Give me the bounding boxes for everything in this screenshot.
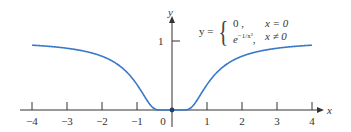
x-tick-label: 3 [274, 115, 280, 127]
case1-expr: 0 , [233, 17, 265, 30]
formula-annotation: y = { 0 , x = 0 e−1/x², x ≠ 0 [199, 17, 288, 46]
x-tick-label: 0 [160, 115, 166, 127]
chart-canvas: −4−3−2−101234 1 y x [0, 0, 351, 132]
x-tick-label: 1 [204, 115, 210, 127]
case1-cond: x = 0 [265, 17, 288, 30]
x-tick-label: −2 [96, 115, 108, 127]
x-axis-arrow-icon [317, 107, 324, 113]
x-tick-label: 4 [309, 115, 315, 127]
formula-cases: 0 , x = 0 e−1/x², x ≠ 0 [233, 17, 288, 46]
x-tick-labels: −4−3−2−101234 [26, 115, 315, 127]
case-row-2: e−1/x², x ≠ 0 [233, 30, 288, 46]
origin-point-marker [170, 108, 175, 113]
x-tick-label: −4 [26, 115, 38, 127]
y-tick-label-1: 1 [158, 35, 164, 47]
case2-sep: , [253, 33, 256, 45]
case2-expr: e−1/x², [233, 30, 265, 46]
x-tick-label: −3 [61, 115, 73, 127]
brace-icon: { [219, 17, 229, 45]
x-tick-label: −1 [131, 115, 143, 127]
x-axis-label: x [326, 104, 332, 116]
case2-exponent: −1/x² [238, 32, 253, 40]
y-axis-label: y [167, 6, 173, 18]
case-row-1: 0 , x = 0 [233, 17, 288, 30]
formula-lhs: y = [199, 25, 213, 38]
case2-cond: x ≠ 0 [265, 30, 287, 46]
x-tick-label: 2 [239, 115, 245, 127]
